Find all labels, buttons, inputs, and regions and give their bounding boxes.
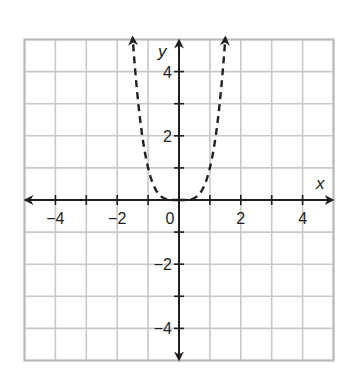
y-tick-label: −4 — [154, 320, 172, 337]
y-tick-label: −2 — [154, 256, 172, 273]
y-axis-label: y — [157, 42, 168, 61]
x-tick-label: −2 — [108, 210, 126, 227]
x-tick-label: 0 — [166, 210, 175, 227]
y-tick-label: 4 — [163, 64, 172, 81]
curve-right-branch — [179, 37, 225, 200]
graph: −4−202442−2−4 x y — [0, 0, 352, 384]
x-tick-label: −4 — [46, 210, 64, 227]
curve-left-branch — [133, 37, 179, 200]
x-tick-label: 4 — [298, 210, 307, 227]
y-tick-label: 2 — [163, 128, 172, 145]
x-tick-label: 2 — [236, 210, 245, 227]
x-axis-label: x — [315, 174, 325, 193]
